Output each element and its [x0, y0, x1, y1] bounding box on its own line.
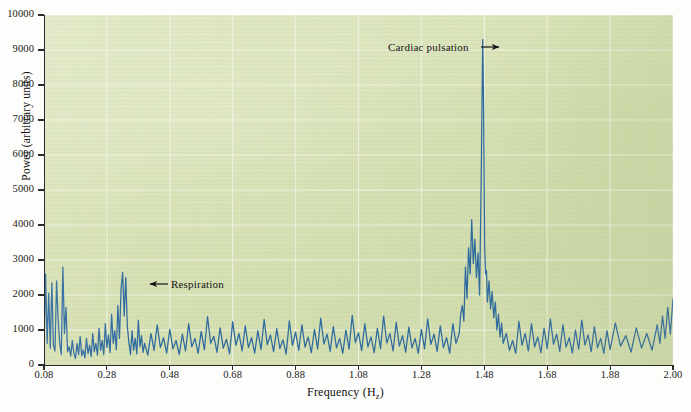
annotation-arrows [0, 0, 691, 412]
power-spectrum-figure: 0100020003000400050006000700080009000100… [0, 0, 691, 412]
